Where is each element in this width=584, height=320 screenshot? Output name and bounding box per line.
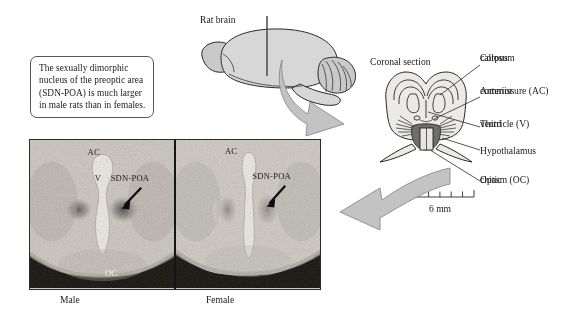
micrograph-male-image	[30, 140, 174, 288]
figure-sdn-poa: The sexually dimorphic nucleus of the pr…	[0, 0, 584, 320]
label-optic-chiasm: Optic chiasm (OC)	[480, 174, 529, 186]
callout-box: The sexually dimorphic nucleus of the pr…	[30, 56, 154, 118]
label-third-ventricle: Third ventricle (V)	[480, 118, 529, 130]
micrograph-female: AC SDN-POA	[174, 140, 320, 289]
label-sdn-poa-female: SDN-POA	[252, 171, 291, 181]
label-ac-female: AC	[225, 146, 237, 156]
label-third-ventricle-line2: ventricle (V)	[480, 118, 529, 130]
label-optic-chiasm-line2: chiasm (OC)	[480, 174, 529, 186]
micrograph-male: AC V SDN-POA OC	[30, 140, 174, 289]
label-v-male: V	[95, 173, 101, 183]
caption-female: Female	[206, 294, 234, 306]
label-corpus-callosum: Corpus callosum	[480, 52, 515, 64]
label-anterior-commissure: Anterior commissure (AC)	[480, 85, 548, 97]
label-ac-male: AC	[88, 147, 100, 157]
label-hypothalamus-line1: Hypothalamus	[480, 145, 536, 157]
callout-text: The sexually dimorphic nucleus of the pr…	[39, 63, 145, 110]
label-anterior-commissure-line2: commissure (AC)	[480, 85, 548, 97]
label-oc-male: OC	[105, 268, 117, 278]
label-corpus-callosum-line2: callosum	[480, 52, 515, 64]
arrow-section-to-micrographs	[334, 166, 454, 236]
micrograph-female-image	[176, 140, 320, 288]
label-sdn-poa-male: SDN-POA	[111, 173, 150, 183]
caption-male: Male	[60, 294, 80, 306]
micrograph-panel-pair: AC V SDN-POA OC	[29, 139, 321, 290]
rat-brain-label: Rat brain	[200, 14, 235, 26]
